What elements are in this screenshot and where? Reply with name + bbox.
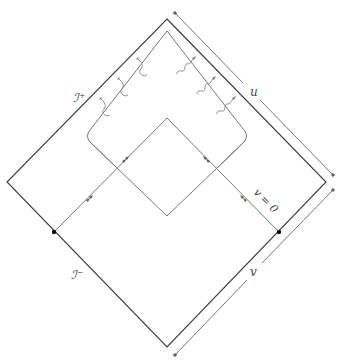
scri-minus-label: ℐ⁻ [71,268,83,282]
u-label: u [250,85,258,99]
radiation-arrowheads-right [192,56,236,100]
outer-diamond [7,19,326,347]
null-line-c [54,118,167,232]
null-line-a [90,142,167,216]
right-dot [277,230,281,234]
null-line-left [90,142,279,232]
null-line-b [167,142,244,216]
penrose-diagram: ℐ⁺ ℐ⁻ u v v = 0 [0,0,340,364]
inner-region-boundary [88,31,247,170]
v-label: v [250,265,257,279]
null-line-d [167,118,279,232]
left-dot [52,230,56,234]
scri-plus-label: ℐ⁺ [73,91,85,105]
v-zero-label: v = 0 [251,186,281,216]
